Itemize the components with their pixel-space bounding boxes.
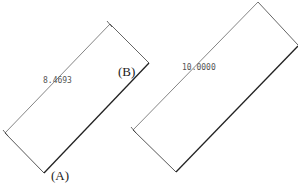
right-dimension-value: 10.0000: [182, 63, 216, 72]
left-rectangle: [3, 21, 149, 173]
left-rect-top-right-edge: [110, 24, 149, 63]
left-dimension-value: 8.4693: [43, 76, 72, 85]
right-rect-top-right-edge: [258, 2, 298, 45]
corner-label-a: (A): [51, 168, 69, 183]
drawing-canvas: 8.4693 10.0000 (B) (A): [0, 0, 298, 184]
corner-label-b: (B): [118, 64, 135, 79]
left-rect-bottom-left-edge: [5, 133, 44, 173]
right-rectangle: [131, 2, 298, 172]
right-rect-bottom-left-edge: [133, 130, 176, 172]
